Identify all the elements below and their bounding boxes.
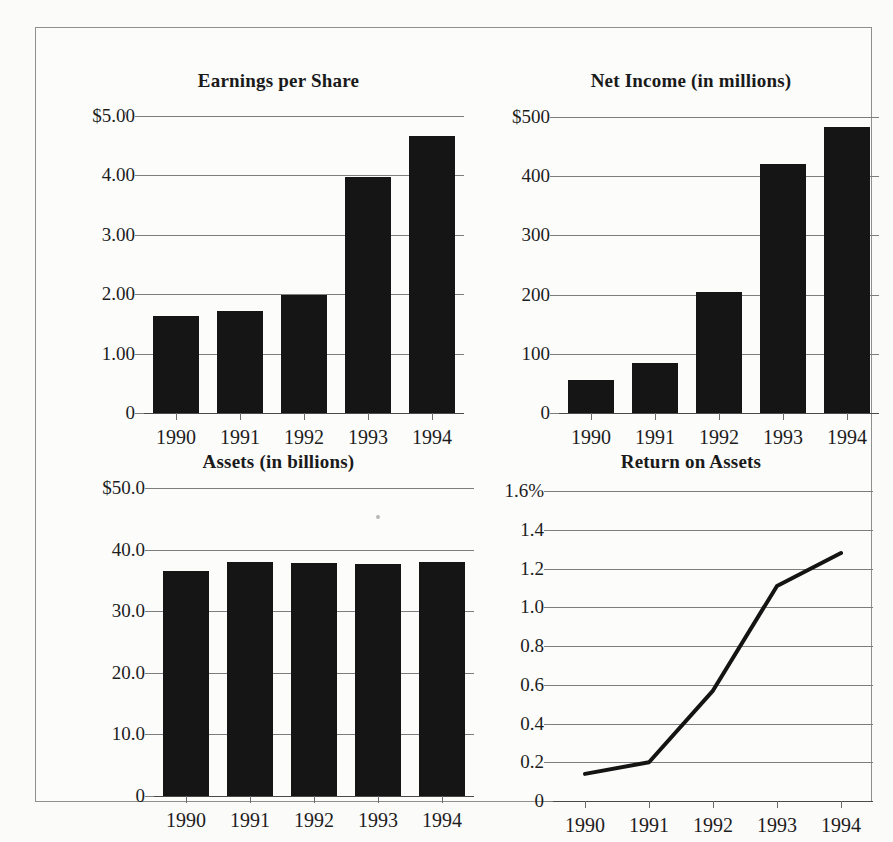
x-axis-tick — [591, 413, 592, 420]
y-axis-tick — [544, 762, 553, 763]
bar-1991 — [632, 363, 678, 413]
scan-speck — [124, 112, 127, 115]
y-axis-label: 2.00 — [102, 283, 135, 305]
x-axis-tick — [713, 801, 714, 808]
y-axis-label: 0.2 — [520, 751, 544, 773]
y-axis-tick — [544, 569, 553, 570]
y-axis-tick — [145, 673, 154, 674]
x-axis-tick — [841, 801, 842, 808]
y-axis-tick — [145, 488, 154, 489]
y-axis-tick — [145, 550, 154, 551]
y-axis-tick — [550, 176, 559, 177]
y-axis-label: $500 — [512, 106, 550, 128]
y-axis-label: 0 — [541, 402, 551, 424]
chart-title-assets: Assets (in billions) — [76, 451, 481, 473]
x-axis-tick — [368, 413, 369, 420]
line-path — [585, 553, 841, 774]
x-axis-tick — [585, 801, 586, 808]
bar-1993 — [760, 164, 806, 413]
x-axis-label: 1993 — [358, 809, 398, 832]
y-axis-tick — [550, 235, 559, 236]
y-axis-label: 20.0 — [112, 662, 145, 684]
y-axis-tick — [544, 646, 553, 647]
y-axis-tick — [145, 796, 154, 797]
chart-panel-assets: Assets (in billions) 010.020.030.040.0$5… — [76, 443, 481, 818]
bar-1994 — [419, 562, 465, 796]
chart-title-earnings-per-share: Earnings per Share — [76, 70, 481, 92]
plot-area-return-on-assets: 00.20.40.60.81.01.21.41.6%19901991199219… — [553, 491, 873, 801]
y-axis-label: 0.6 — [520, 674, 544, 696]
bar-1992 — [281, 295, 327, 413]
figure-frame: Earnings per Share 01.002.003.004.00$5.0… — [35, 27, 872, 802]
bar-1992 — [291, 563, 337, 796]
bar-1991 — [227, 562, 273, 796]
x-axis-label: 1991 — [230, 809, 270, 832]
y-axis-label: 0.4 — [520, 713, 544, 735]
x-axis-label: 1994 — [821, 814, 861, 837]
y-axis-label: 30.0 — [112, 600, 145, 622]
x-axis-label: 1993 — [757, 814, 797, 837]
chart-title-net-income: Net Income (in millions) — [481, 70, 893, 92]
line-series-return-on-assets — [553, 491, 873, 801]
plot-area-net-income: 0100200300400$50019901991199219931994 — [559, 117, 879, 413]
plot-area-earnings-per-share: 01.002.003.004.00$5.00199019911992199319… — [144, 116, 464, 413]
x-axis-tick — [378, 796, 379, 803]
y-axis-tick — [544, 607, 553, 608]
y-axis-label: 0 — [126, 402, 136, 424]
y-axis-label: 4.00 — [102, 164, 135, 186]
x-axis-tick — [649, 801, 650, 808]
x-axis-label: 1992 — [693, 814, 733, 837]
bar-1994 — [824, 127, 870, 413]
bar-1992 — [696, 292, 742, 413]
y-axis-tick — [544, 491, 553, 492]
x-axis-tick — [176, 413, 177, 420]
bar-1994 — [409, 136, 455, 413]
y-axis-label: 1.2 — [520, 558, 544, 580]
y-axis-tick — [145, 611, 154, 612]
bar-1993 — [345, 177, 391, 413]
y-axis-label: $5.00 — [92, 105, 135, 127]
x-axis-label: 1990 — [166, 809, 206, 832]
x-axis-tick — [314, 796, 315, 803]
x-axis-tick — [240, 413, 241, 420]
chart-panel-earnings-per-share: Earnings per Share 01.002.003.004.00$5.0… — [76, 58, 481, 433]
chart-panel-net-income: Net Income (in millions) 0100200300400$5… — [481, 58, 893, 433]
y-axis-label: 1.0 — [520, 596, 544, 618]
scan-speck — [376, 515, 380, 519]
x-axis-tick — [777, 801, 778, 808]
y-axis-tick — [135, 235, 144, 236]
y-axis-tick — [550, 295, 559, 296]
x-axis-tick — [655, 413, 656, 420]
x-axis-tick — [442, 796, 443, 803]
x-axis-tick — [186, 796, 187, 803]
y-axis-label: 300 — [522, 224, 551, 246]
y-axis-label: $50.0 — [102, 477, 145, 499]
y-axis-label: 200 — [522, 284, 551, 306]
y-axis-label: 0 — [136, 785, 146, 807]
y-axis-tick — [550, 413, 559, 414]
y-axis-label: 10.0 — [112, 723, 145, 745]
y-axis-tick — [544, 801, 553, 802]
y-axis-tick — [135, 175, 144, 176]
x-axis-label: 1990 — [565, 814, 605, 837]
plot-area-assets: 010.020.030.040.0$50.0199019911992199319… — [154, 488, 474, 796]
y-axis-tick — [135, 413, 144, 414]
y-axis-tick — [135, 354, 144, 355]
x-axis-tick — [432, 413, 433, 420]
bar-1991 — [217, 311, 263, 413]
y-axis-tick — [544, 530, 553, 531]
x-axis-tick — [847, 413, 848, 420]
x-axis-tick — [719, 413, 720, 420]
y-axis-label: 40.0 — [112, 539, 145, 561]
y-axis-label: 1.6% — [504, 480, 544, 502]
chart-title-return-on-assets: Return on Assets — [481, 451, 893, 473]
x-axis-tick — [783, 413, 784, 420]
gridline — [154, 550, 474, 551]
y-axis-label: 400 — [522, 165, 551, 187]
gridline — [144, 116, 464, 117]
scanned-page: Earnings per Share 01.002.003.004.00$5.0… — [0, 0, 893, 842]
y-axis-tick — [544, 724, 553, 725]
gridline — [154, 488, 474, 489]
y-axis-label: 0.8 — [520, 635, 544, 657]
x-axis-label: 1992 — [294, 809, 334, 832]
